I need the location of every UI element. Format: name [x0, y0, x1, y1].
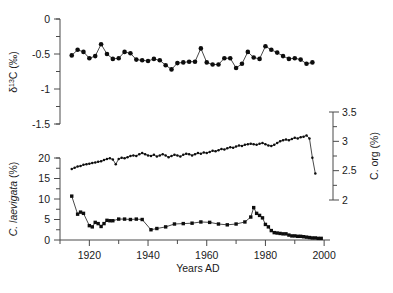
corg-data-point: [126, 156, 129, 159]
claevigata-tick-label: 10: [38, 193, 50, 205]
corg-tick-label: 2: [342, 194, 348, 206]
corg-data-point: [82, 164, 85, 167]
corg-data-point: [73, 166, 76, 169]
corg-data-point: [88, 162, 91, 165]
claevigata-data-point: [173, 222, 176, 225]
corg-series-line: [72, 135, 316, 173]
d13c-data-point: [87, 56, 92, 61]
claevigata-data-point: [273, 231, 276, 234]
claevigata-data-point: [70, 194, 73, 197]
corg-data-point: [203, 151, 206, 154]
corg-data-point: [191, 154, 194, 157]
d13c-data-point: [93, 54, 98, 59]
corg-axis-title: C. org (%): [368, 132, 380, 180]
corg-data-point: [205, 152, 208, 155]
d13c-data-point: [99, 42, 104, 47]
claevigata-data-point: [249, 215, 252, 218]
corg-data-point: [103, 159, 106, 162]
corg-data-point: [223, 148, 226, 151]
claevigata-data-point: [308, 236, 311, 239]
claevigata-data-point: [255, 212, 258, 215]
d13c-data-point: [210, 62, 215, 67]
corg-data-point: [185, 152, 188, 155]
corg-tick-label: 3.5: [342, 106, 357, 118]
d13c-tick-label: 0: [44, 13, 50, 25]
corg-data-point: [314, 172, 317, 175]
d13c-data-point: [128, 51, 133, 56]
x-tick-label: 1940: [136, 249, 160, 261]
corg-data-point: [159, 154, 162, 157]
d13c-series-line: [72, 44, 313, 69]
corg-data-point: [226, 147, 229, 150]
d13c-data-point: [263, 44, 268, 49]
claevigata-data-point: [264, 223, 267, 226]
panel-claevigata: 20151050C. laevigata (%)1920194019601980…: [7, 152, 336, 274]
claevigata-data-point: [293, 234, 296, 237]
claevigata-data-point: [311, 236, 314, 239]
claevigata-data-point: [182, 222, 185, 225]
corg-data-point: [258, 142, 261, 145]
corg-data-point: [120, 157, 123, 160]
claevigata-axis-title: C. laevigata (%): [7, 162, 19, 237]
claevigata-data-point: [91, 225, 94, 228]
d13c-data-point: [287, 57, 292, 62]
claevigata-data-point: [129, 218, 132, 221]
corg-axis-spine: [329, 112, 333, 200]
corg-data-point: [176, 154, 179, 157]
corg-data-point: [273, 144, 276, 147]
claevigata-data-point: [88, 224, 91, 227]
claevigata-tick-label: 0: [44, 234, 50, 246]
d13c-data-point: [81, 50, 86, 55]
claevigata-tick-label: 20: [38, 152, 50, 164]
corg-data-point: [302, 135, 305, 138]
claevigata-data-point: [105, 219, 108, 222]
d13c-data-point: [240, 62, 245, 67]
claevigata-data-point: [217, 222, 220, 225]
d13c-data-point: [146, 59, 151, 64]
corg-tick-label: 2.5: [342, 164, 357, 176]
corg-data-point: [197, 152, 200, 155]
d13c-data-point: [140, 58, 145, 63]
corg-data-point: [117, 158, 120, 161]
claevigata-data-point: [102, 222, 105, 225]
corg-data-point: [173, 154, 176, 157]
corg-data-point: [129, 155, 132, 158]
corg-data-point: [238, 144, 241, 147]
claevigata-data-point: [320, 237, 323, 240]
claevigata-series-line: [72, 196, 321, 238]
claevigata-tick-label: 5: [44, 213, 50, 225]
x-tick-label: 1920: [78, 249, 102, 261]
claevigata-data-point: [243, 220, 246, 223]
claevigata-data-point: [284, 232, 287, 235]
claevigata-data-point: [302, 235, 305, 238]
claevigata-data-point: [261, 216, 264, 219]
corg-data-point: [296, 137, 299, 140]
corg-data-point: [208, 151, 211, 154]
d13c-data-point: [157, 58, 162, 63]
d13c-data-point: [175, 61, 180, 66]
multi-panel-timeseries-chart: 0-0.5-1-1.5δ13C (‰)3.532.52C. org (%)201…: [0, 0, 393, 293]
claevigata-data-point: [305, 235, 308, 238]
claevigata-data-point: [290, 234, 293, 237]
corg-data-point: [156, 155, 159, 158]
d13c-tick-label: -0.5: [32, 48, 50, 60]
claevigata-data-point: [123, 217, 126, 220]
claevigata-tick-label: 15: [38, 172, 50, 184]
corg-data-point: [97, 161, 100, 164]
claevigata-data-point: [76, 212, 79, 215]
x-tick-label: 2000: [312, 249, 336, 261]
corg-data-point: [100, 160, 103, 163]
corg-data-point: [276, 142, 279, 145]
corg-data-point: [267, 144, 270, 147]
corg-data-point: [252, 143, 255, 146]
corg-data-point: [217, 149, 220, 152]
claevigata-data-point: [208, 221, 211, 224]
d13c-data-point: [234, 66, 239, 71]
claevigata-data-point: [267, 225, 270, 228]
corg-data-point: [147, 154, 150, 157]
claevigata-data-point: [296, 235, 299, 238]
corg-data-point: [138, 153, 141, 156]
corg-data-point: [109, 157, 112, 160]
corg-data-point: [235, 145, 238, 148]
corg-data-point: [79, 165, 82, 168]
